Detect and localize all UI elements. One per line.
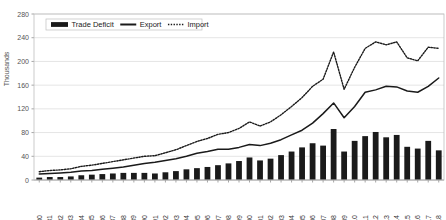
legend-label-import: Import <box>187 20 209 29</box>
x-tick-label-2006: 2006 <box>309 215 316 220</box>
x-tick-label-2008: 2008 <box>330 215 337 220</box>
bar-1987 <box>110 173 116 180</box>
y-tick-label: 200 <box>17 58 29 65</box>
x-tick-label-2013: 2013 <box>383 215 390 220</box>
x-tick-label-1991: 1991 <box>152 215 159 220</box>
x-tick-label-1986: 1986 <box>99 215 106 220</box>
bar-2012 <box>373 132 379 180</box>
x-tick-label-2000: 2000 <box>246 215 253 220</box>
bar-2002 <box>268 159 274 180</box>
bar-2013 <box>383 137 389 180</box>
x-tick-label-1980: 1980 <box>36 215 43 220</box>
bar-1990 <box>141 173 147 180</box>
x-tick-label-2016: 2016 <box>414 215 421 220</box>
x-tick-label-1981: 1981 <box>46 215 53 220</box>
x-tick-label-2017: 2017 <box>425 215 432 220</box>
bar-2003 <box>278 155 284 180</box>
x-tick-label-1982: 1982 <box>57 215 64 220</box>
bar-2007 <box>320 146 326 180</box>
bar-1982 <box>57 177 63 180</box>
x-tick-label-2014: 2014 <box>393 215 400 220</box>
bar-1989 <box>131 173 137 180</box>
bar-2016 <box>415 149 421 180</box>
chart-legend: Trade DeficitExportImport <box>46 19 210 30</box>
bar-2011 <box>362 136 368 180</box>
y-tick-label: 160 <box>17 82 29 89</box>
x-tick-label-2002: 2002 <box>267 215 274 220</box>
x-tick-label-1997: 1997 <box>215 215 222 220</box>
bar-1991 <box>152 173 158 180</box>
bar-2010 <box>352 141 358 180</box>
x-tick-label-1996: 1996 <box>204 215 211 220</box>
x-tick-label-1989: 1989 <box>130 215 137 220</box>
y-tick-label: 80 <box>21 129 29 136</box>
bar-2006 <box>310 143 316 180</box>
bar-1997 <box>215 165 221 180</box>
bar-2000 <box>247 157 253 180</box>
bar-1984 <box>78 175 84 180</box>
bar-1996 <box>205 167 211 180</box>
bar-1981 <box>47 177 53 180</box>
plot-background-group <box>0 0 446 220</box>
x-tick-label-1984: 1984 <box>78 215 85 220</box>
y-tick-label: 240 <box>17 34 29 41</box>
x-tick-label-2005: 2005 <box>299 215 306 220</box>
bar-2014 <box>394 135 400 180</box>
x-tick-label-2011: 2011 <box>362 215 369 220</box>
x-tick-label-2015: 2015 <box>404 215 411 220</box>
legend-label-trade-deficit: Trade Deficit <box>72 20 115 29</box>
y-axis-label-text: Thousands <box>3 51 10 86</box>
x-tick-label-2003: 2003 <box>278 215 285 220</box>
x-tick-label-1992: 1992 <box>162 215 169 220</box>
legend-label-export: Export <box>140 20 163 29</box>
x-tick-label-1990: 1990 <box>141 215 148 220</box>
y-tick-label: 0 <box>25 177 29 184</box>
bar-2001 <box>257 160 263 180</box>
bar-2017 <box>425 141 431 180</box>
bar-2009 <box>341 152 347 180</box>
x-tick-label-1988: 1988 <box>120 215 127 220</box>
y-tick-label: 280 <box>17 11 29 18</box>
x-tick-label-2001: 2001 <box>257 215 264 220</box>
bar-2004 <box>289 152 295 180</box>
x-tick-label-2007: 2007 <box>320 215 327 220</box>
bar-1998 <box>226 163 232 180</box>
bar-2018 <box>436 150 442 180</box>
bar-1993 <box>173 171 179 180</box>
x-tick-label-1998: 1998 <box>225 215 232 220</box>
y-tick-label: 40 <box>21 153 29 160</box>
x-tick-label-1994: 1994 <box>183 215 190 220</box>
bar-1983 <box>68 176 74 180</box>
x-tick-label-2018: 2018 <box>435 215 442 220</box>
x-tick-label-1995: 1995 <box>194 215 201 220</box>
x-tick-label-2004: 2004 <box>288 215 295 220</box>
trade-chart-container: 04080120160200240280 Thousands 198019811… <box>0 0 446 220</box>
legend-swatch-trade-deficit <box>51 22 68 27</box>
bar-1986 <box>99 174 105 180</box>
x-tick-label-2009: 2009 <box>341 215 348 220</box>
bar-1988 <box>120 173 126 180</box>
x-tick-label-1987: 1987 <box>109 215 116 220</box>
chart-background <box>0 0 446 220</box>
y-axis-title: Thousands <box>3 51 10 86</box>
x-tick-label-2010: 2010 <box>351 215 358 220</box>
y-tick-label: 120 <box>17 105 29 112</box>
bar-2015 <box>404 147 410 180</box>
bar-1992 <box>163 172 169 180</box>
bar-2005 <box>299 147 305 180</box>
x-tick-label-1985: 1985 <box>88 215 95 220</box>
bar-1994 <box>184 169 190 180</box>
x-tick-label-2012: 2012 <box>372 215 379 220</box>
bar-1995 <box>194 168 200 180</box>
x-tick-label-1999: 1999 <box>236 215 243 220</box>
x-tick-label-1993: 1993 <box>173 215 180 220</box>
bar-2008 <box>331 129 337 180</box>
x-tick-label-1983: 1983 <box>67 215 74 220</box>
bar-1985 <box>89 175 95 180</box>
chart-canvas: 04080120160200240280 Thousands 198019811… <box>0 0 446 220</box>
bar-1999 <box>236 161 242 180</box>
